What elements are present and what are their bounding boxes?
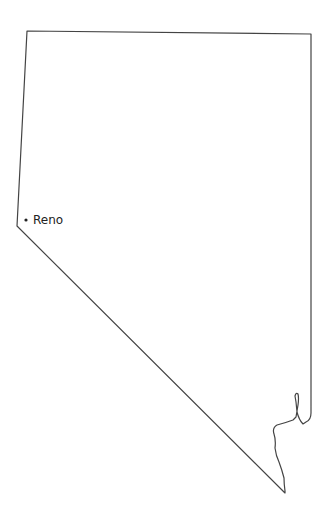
city-label-reno: Reno [33, 213, 63, 227]
city-dot-reno [24, 218, 27, 221]
state-outline [0, 0, 334, 520]
